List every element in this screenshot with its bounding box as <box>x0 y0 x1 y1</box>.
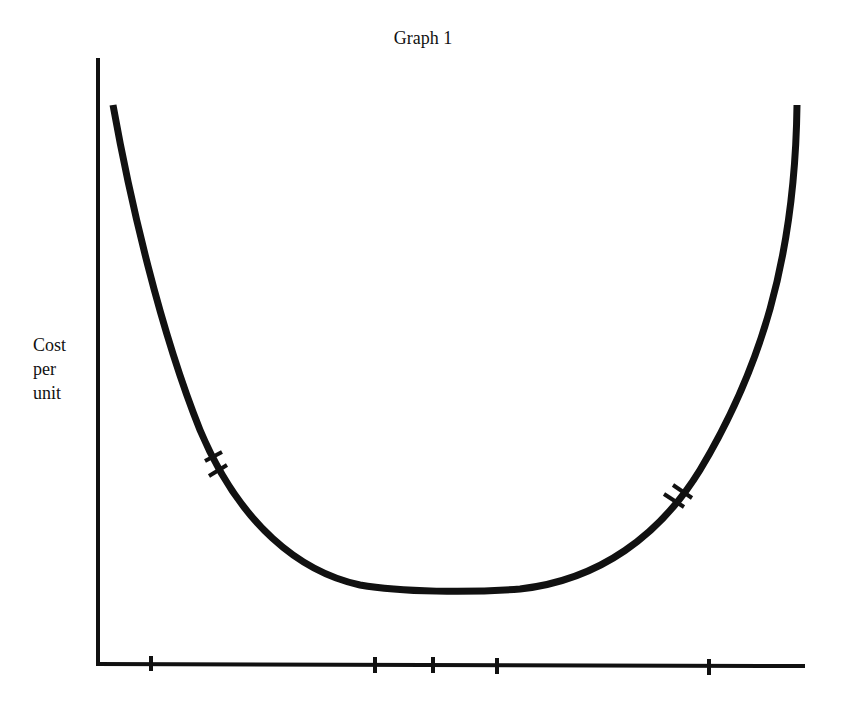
chart-plot-area <box>0 0 846 728</box>
x-axis <box>96 664 805 666</box>
cost-curve <box>113 105 797 591</box>
